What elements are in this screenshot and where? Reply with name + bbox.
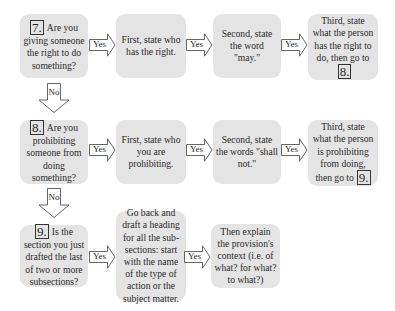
yes-arrow-right: Yes	[89, 245, 116, 269]
yes-arrow-right: Yes	[186, 33, 213, 57]
question-8-box: 8.Are you prohibiting someone from doing…	[20, 120, 88, 184]
step-number-badge: 8.	[30, 120, 44, 135]
step-box-8-3: Third, state what the person is prohibit…	[308, 120, 378, 186]
no-label: No	[44, 192, 64, 203]
step-number-badge: 9.	[35, 224, 49, 239]
yes-label: Yes	[283, 144, 300, 155]
step-box-9-1: Go back and draft a heading for all the …	[116, 211, 186, 301]
yes-label: Yes	[91, 144, 108, 155]
step-box-8-2: Second, state the words "shall not."	[213, 120, 281, 184]
yes-arrow-right: Yes	[184, 245, 211, 269]
yes-label: Yes	[188, 144, 205, 155]
step-text: Second, state the word "may."	[216, 28, 278, 65]
yes-label: Yes	[91, 39, 108, 50]
yes-arrow-right: Yes	[89, 138, 116, 162]
yes-label: Yes	[283, 39, 300, 50]
step-box-9-2: Then explain the provision's context (i.…	[211, 224, 280, 288]
step-text: First, state who you are prohibiting.	[119, 134, 183, 171]
no-arrow-down: No	[38, 83, 70, 113]
step-text: Second, state the words "shall not."	[216, 134, 278, 171]
step-box-7-3: Third, state what the person has the rig…	[308, 14, 378, 80]
no-arrow-down: No	[38, 188, 70, 218]
goto-badge: 9.	[357, 170, 371, 185]
step-box-7-2: Second, state the word "may."	[213, 14, 281, 78]
step-text: First, state who has the right.	[119, 34, 183, 58]
step-box-7-1: First, state who has the right.	[116, 14, 186, 78]
question-text: Is the section you just drafted the last…	[24, 226, 84, 287]
step-text: Go back and draft a heading for all the …	[119, 207, 183, 305]
step-text: Then explain the provision's context (i.…	[214, 226, 277, 287]
yes-arrow-right: Yes	[281, 33, 308, 57]
no-label: No	[44, 87, 64, 98]
question-7-box: 7.Are you giving someone the right to do…	[20, 14, 88, 78]
step-box-8-1: First, state who you are prohibiting.	[116, 120, 186, 184]
yes-arrow-right: Yes	[186, 138, 213, 162]
yes-label: Yes	[188, 39, 205, 50]
step-text: Third, state what the person has the rig…	[313, 15, 374, 63]
question-9-box: 9.Is the section you just drafted the la…	[20, 225, 88, 287]
goto-badge: 8.	[338, 64, 352, 79]
yes-arrow-right: Yes	[89, 33, 116, 57]
step-number-badge: 7.	[30, 20, 44, 35]
yes-label: Yes	[186, 251, 203, 262]
yes-arrow-right: Yes	[281, 138, 308, 162]
yes-label: Yes	[91, 251, 108, 262]
